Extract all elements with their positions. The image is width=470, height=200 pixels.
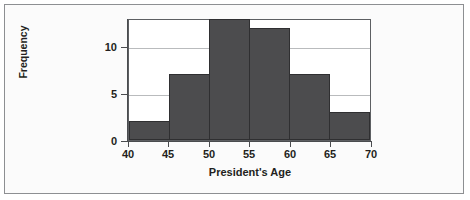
x-tick-label-70: 70 bbox=[351, 149, 391, 160]
y-axis-line bbox=[127, 19, 128, 142]
x-tick-label-45: 45 bbox=[148, 149, 188, 160]
x-tick-mark-55 bbox=[249, 141, 250, 147]
bar-60-65 bbox=[289, 74, 330, 140]
x-tick-label-40: 40 bbox=[108, 149, 148, 160]
y-tick-mark-0 bbox=[121, 141, 128, 142]
y-tick-mark-5 bbox=[121, 94, 128, 95]
x-tick-label-65: 65 bbox=[310, 149, 350, 160]
bar-45-50 bbox=[169, 74, 210, 140]
x-tick-mark-60 bbox=[290, 141, 291, 147]
x-tick-label-50: 50 bbox=[189, 149, 229, 160]
y-tick-mark-10 bbox=[121, 47, 128, 48]
bar-55-60 bbox=[249, 28, 290, 140]
y-tick-label-0: 0 bbox=[77, 136, 117, 147]
x-axis-title: President's Age bbox=[128, 166, 372, 178]
x-tick-mark-40 bbox=[128, 141, 129, 147]
bars-layer bbox=[129, 20, 370, 140]
y-tick-label-5: 5 bbox=[77, 89, 117, 100]
x-tick-mark-70 bbox=[371, 141, 372, 147]
bar-65-70 bbox=[329, 112, 370, 140]
y-axis-title: Frequency bbox=[17, 12, 29, 92]
histogram-chart: 10 5 0 Frequency 40 45 50 55 60 65 70 Pr… bbox=[0, 0, 470, 200]
x-tick-mark-45 bbox=[168, 141, 169, 147]
x-tick-mark-65 bbox=[330, 141, 331, 147]
bar-50-55 bbox=[209, 19, 250, 140]
x-tick-label-60: 60 bbox=[270, 149, 310, 160]
x-tick-mark-50 bbox=[209, 141, 210, 147]
x-axis-line bbox=[128, 141, 372, 142]
plot-area bbox=[128, 19, 371, 141]
bar-40-45 bbox=[129, 121, 170, 140]
y-tick-label-10: 10 bbox=[77, 42, 117, 53]
x-tick-label-55: 55 bbox=[229, 149, 269, 160]
